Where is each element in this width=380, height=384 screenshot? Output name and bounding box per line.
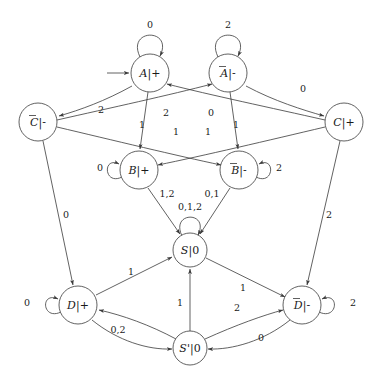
- fsm-canvas: A|+A|-C|-C|+B|+B|-S|0D|+D|-S'|0 02201201…: [0, 0, 380, 384]
- state-node-D[interactable]: D|+: [59, 286, 97, 324]
- edge-label-Sprime-to-S: 1: [177, 297, 183, 308]
- state-node-Abar[interactable]: A|-: [209, 54, 247, 92]
- state-label-Abar: A|-: [219, 67, 236, 81]
- edge-label-loop-A: 0: [147, 19, 153, 30]
- state-label-Sprime: S'|0: [179, 342, 200, 356]
- edge-label-C-to-A: 0: [208, 107, 214, 118]
- edge-label-Abar-to-Bbar: 1: [233, 119, 239, 130]
- edge-label-C-to-Dbar: 2: [326, 209, 332, 220]
- edge-D-to-Sprime: [92, 320, 172, 349]
- edge-label-B-to-S: 1,2: [159, 188, 174, 199]
- edge-label-C-to-B: 1: [173, 126, 179, 137]
- edge-label-loop-S: 0,1,2: [178, 201, 202, 212]
- edge-label-loop-D: 0: [24, 297, 30, 308]
- state-node-S[interactable]: S|0: [173, 233, 207, 267]
- state-label-Cbar: C|-: [30, 116, 46, 130]
- edge-label-Cbar-to-D: 0: [63, 209, 69, 220]
- fsm-diagram: A|+A|-C|-C|+B|+B|-S|0D|+D|-S'|0 02201201…: [0, 0, 380, 384]
- state-node-A[interactable]: A|+: [131, 54, 169, 92]
- state-node-Sprime[interactable]: S'|0: [173, 331, 207, 365]
- edge-label-A-to-B: 1: [139, 119, 145, 130]
- edge-Dbar-to-Sprime: [208, 320, 290, 349]
- edge-label-Cbar-to-A: 2: [98, 104, 104, 115]
- state-label-S: S|0: [181, 244, 199, 258]
- edge-Abar-to-C: [246, 86, 324, 116]
- edge-label-loop-Abar: 2: [225, 19, 231, 30]
- edge-label-Cbar-to-Abar: 2: [163, 107, 169, 118]
- edge-C-to-Dbar: [307, 141, 340, 285]
- state-label-Bbar: B|-: [230, 164, 247, 178]
- state-node-B[interactable]: B|+: [120, 151, 158, 189]
- edge-label-S-to-Dbar: 1: [240, 282, 246, 293]
- edge-label-Sprime-to-D: 0,2: [110, 324, 125, 335]
- edge-label-Bbar-to-S: 0,1: [204, 188, 219, 199]
- edge-label-loop-Dbar: 2: [350, 297, 356, 308]
- edge-label-Sprime-to-Dbar: 2: [234, 302, 240, 313]
- edge-label-loop-B: 0: [97, 162, 103, 173]
- state-node-Bbar[interactable]: B|-: [220, 151, 258, 189]
- state-label-B: B|+: [127, 164, 149, 178]
- edge-label-Dbar-to-Sprime: 0: [258, 332, 264, 343]
- state-label-A: A|+: [139, 67, 161, 81]
- edge-label-D-to-S: 1: [128, 266, 134, 277]
- state-node-Cbar[interactable]: C|-: [19, 103, 57, 141]
- edge-label-Cbar-to-Bbar: 1: [205, 126, 211, 137]
- state-label-C: C|+: [333, 116, 354, 130]
- edge-label-Abar-to-C: 0: [300, 83, 306, 94]
- state-node-C[interactable]: C|+: [325, 103, 363, 141]
- edge-label-loop-Bbar: 2: [276, 162, 282, 173]
- state-node-Dbar[interactable]: D|-: [283, 286, 321, 324]
- edge-Sprime-to-Dbar: [205, 310, 283, 339]
- state-label-Dbar: D|-: [293, 299, 311, 313]
- state-label-D: D|+: [66, 299, 89, 313]
